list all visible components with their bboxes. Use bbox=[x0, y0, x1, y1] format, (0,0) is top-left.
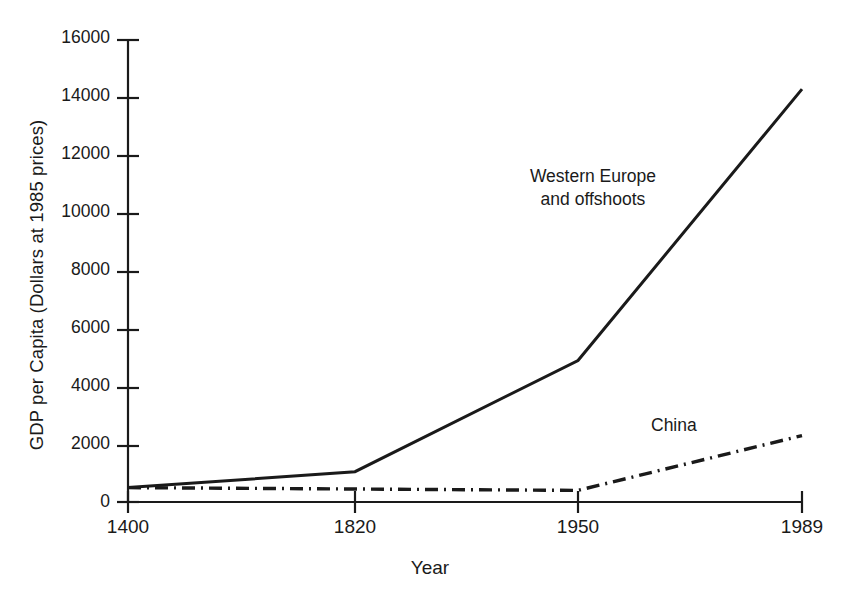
series-line-china bbox=[128, 436, 802, 491]
series-line-western-europe bbox=[128, 89, 802, 488]
plot-area bbox=[0, 0, 852, 601]
axes-group bbox=[117, 40, 802, 513]
gdp-per-capita-line-chart: GDP per Capita (Dollars at 1985 prices) … bbox=[0, 0, 852, 601]
